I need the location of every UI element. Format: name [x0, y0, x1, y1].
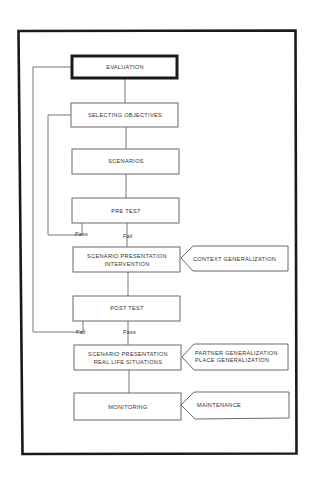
- node-label: EVALUATION: [106, 64, 144, 70]
- flowchart: Pass Fail Fail Pass EVALUATION SELECTING…: [0, 0, 316, 478]
- node-label-line-2: INTERVENTION: [104, 261, 149, 267]
- node-scenario-intervention: SCENARIO PRESENTATION INTERVENTION: [73, 247, 180, 272]
- node-monitoring: MONITORING: [74, 393, 181, 420]
- outer-frame: [19, 31, 297, 455]
- node-label-line-1: SCENARIO PRESENTATION: [88, 351, 168, 357]
- node-label: MONITORING: [108, 404, 147, 410]
- input-label-line-1: PARTNER GENERALIZATION: [195, 350, 278, 356]
- input-label: CONTEXT GENERALIZATION: [193, 256, 276, 262]
- node-label: SCENARIOS: [108, 158, 144, 164]
- node-post-test: POST TEST: [73, 296, 180, 321]
- posttest-fail-label: Fail: [76, 329, 86, 335]
- node-scenario-real-life: SCENARIO PRESENTATION REAL LIFE SITUATIO…: [74, 345, 181, 370]
- input-maintenance: MAINTENANCE: [181, 392, 289, 419]
- node-scenarios: SCENARIOS: [72, 149, 179, 174]
- input-label-line-2: PLACE GENERALIZATION: [195, 357, 269, 363]
- input-context-generalization: CONTEXT GENERALIZATION: [181, 246, 288, 271]
- node-label-line-2: REAL LIFE SITUATIONS: [94, 359, 162, 365]
- pretest-fail-label: Fail: [123, 233, 133, 239]
- node-label-line-1: SCENARIO PRESENTATION: [87, 253, 167, 259]
- node-label: SELECTING OBJECTIVES: [88, 112, 162, 118]
- pretest-pass-label: Pass: [75, 231, 88, 237]
- input-label: MAINTENANCE: [197, 402, 241, 408]
- posttest-pass-label: Pass: [123, 329, 136, 335]
- node-label: POST TEST: [110, 305, 144, 311]
- node-selecting-objectives: SELECTING OBJECTIVES: [71, 103, 178, 127]
- node-evaluation: EVALUATION: [72, 56, 177, 78]
- input-partner-place-generalization: PARTNER GENERALIZATION PLACE GENERALIZAT…: [182, 344, 288, 370]
- node-pre-test: PRE TEST: [72, 198, 179, 223]
- node-label: PRE TEST: [111, 208, 141, 214]
